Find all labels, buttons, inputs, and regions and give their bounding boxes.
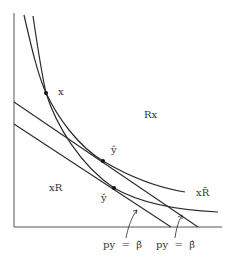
label-budget-upper: py = β̂ (156, 239, 195, 250)
arrow-budget-lower (126, 210, 137, 238)
label-xr-bar: xR̄ (196, 187, 210, 198)
label-budget-lower: py = β̌ (103, 239, 142, 250)
label-rx: Rx (144, 109, 158, 120)
diagram: x Rx ŷ xR y̌ xR̄ py = β̌ py = β̂ (0, 0, 233, 257)
label-x: x (58, 86, 64, 97)
indifference-curve-upper (24, 15, 185, 192)
label-y-check: y̌ (100, 192, 107, 203)
point-x-dot (44, 91, 48, 95)
point-y-check-dot (112, 186, 116, 190)
label-y-hat: ŷ (110, 144, 117, 155)
budget-line-upper (14, 102, 198, 227)
budget-line-lower (14, 124, 171, 227)
label-xr: xR (49, 182, 63, 193)
point-y-hat-dot (101, 159, 105, 163)
